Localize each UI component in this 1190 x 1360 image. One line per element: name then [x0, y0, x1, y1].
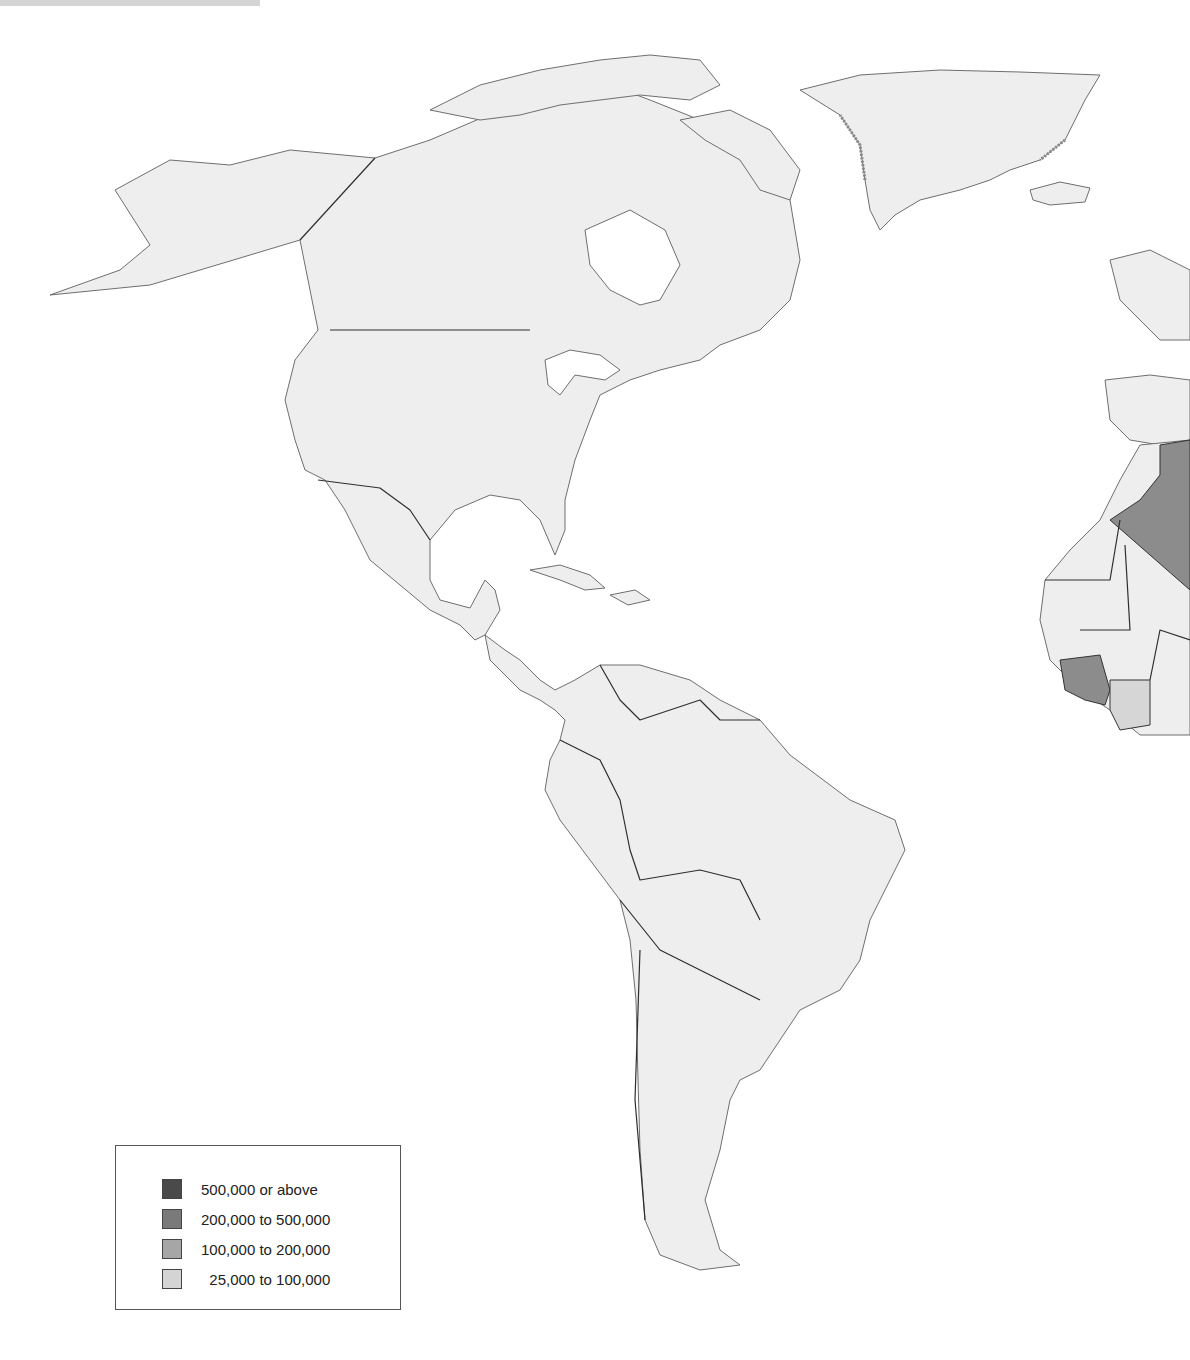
legend-item-200k-500k: 200,000 to 500,000 — [162, 1209, 330, 1229]
british-isles — [1110, 250, 1190, 340]
legend-label: 25,000 to 100,000 — [201, 1271, 330, 1288]
cuba — [530, 565, 605, 590]
greenland — [800, 70, 1100, 230]
iberia — [1105, 375, 1190, 445]
legend-item-500k-plus: 500,000 or above — [162, 1179, 318, 1199]
legend-item-25k-100k: 25,000 to 100,000 — [162, 1269, 330, 1289]
north-america-landmass — [50, 85, 800, 640]
hispaniola — [610, 590, 650, 605]
map-legend: 500,000 or above 200,000 to 500,000 100,… — [115, 1145, 401, 1310]
legend-label: 100,000 to 200,000 — [201, 1241, 330, 1258]
legend-label: 200,000 to 500,000 — [201, 1211, 330, 1228]
legend-swatch — [162, 1269, 182, 1289]
guinea — [1060, 655, 1110, 705]
cote-divoire — [1110, 680, 1150, 730]
legend-label: 500,000 or above — [201, 1181, 318, 1198]
south-america-landmass — [485, 635, 905, 1270]
legend-item-100k-200k: 100,000 to 200,000 — [162, 1239, 330, 1259]
iceland — [1030, 182, 1090, 205]
legend-swatch — [162, 1239, 182, 1259]
legend-swatch — [162, 1179, 182, 1199]
legend-swatch — [162, 1209, 182, 1229]
